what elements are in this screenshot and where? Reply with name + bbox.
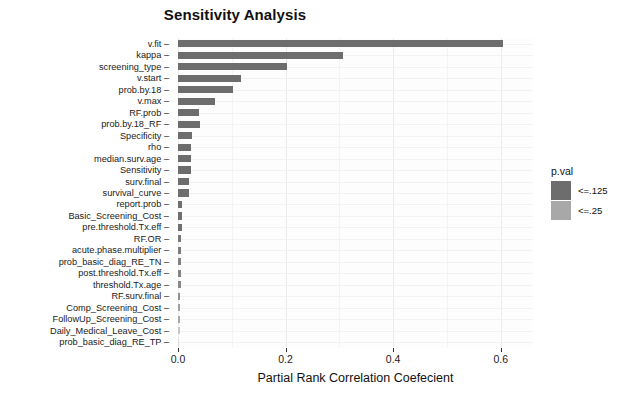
y-tick-label: rho – (148, 142, 169, 152)
bar (178, 270, 181, 277)
bar (178, 201, 182, 208)
y-tick-label: FollowUp_Screening_Cost – (53, 314, 169, 324)
legend-item[interactable]: <=.125 (551, 181, 636, 200)
bar (178, 109, 199, 116)
x-axis-title: Partial Rank Correlation Coefecient (178, 371, 533, 385)
bar (178, 75, 241, 82)
y-tick-label: v.start – (137, 73, 169, 83)
x-tick-label: 0.4 (386, 353, 401, 365)
bar (178, 40, 503, 47)
y-tick-label: report.prob – (116, 199, 169, 209)
x-tick-mark (501, 348, 502, 352)
bar (178, 281, 181, 288)
bar (178, 235, 181, 242)
legend-entries: <=.125<=.25 (551, 181, 636, 220)
y-tick-label: RF.prob – (129, 108, 169, 118)
legend-label: <=.25 (578, 205, 602, 216)
bar (178, 224, 182, 231)
y-tick-label: pre.threshold.Tx.eff – (82, 222, 169, 232)
legend: p.val <=.125<=.25 (551, 165, 636, 221)
bar (178, 304, 180, 311)
legend-item[interactable]: <=.25 (551, 201, 636, 220)
bar (178, 86, 233, 93)
y-tick-label: Daily_Medical_Leave_Cost – (50, 326, 169, 336)
y-tick-label: threshold.Tx.age – (93, 280, 169, 290)
y-tick-label: RF.surv.final – (111, 291, 169, 301)
y-tick-label: acute.phase.multiplier – (72, 245, 169, 255)
y-tick-label: Basic_Screening_Cost – (68, 211, 169, 221)
y-tick-label: RF.OR – (134, 234, 169, 244)
x-tick-label: 0.0 (171, 353, 186, 365)
y-axis: v.fit –kappa –screening_type –v.start –p… (0, 38, 178, 348)
y-tick-label: v.fit – (148, 39, 169, 49)
bar (178, 327, 180, 334)
y-tick-label: v.max – (138, 96, 169, 106)
y-tick-label: prob.by.18_RF – (101, 119, 169, 129)
x-tick-label: 0.6 (493, 353, 508, 365)
y-tick-label: Sensitivity – (120, 165, 169, 175)
bar (178, 339, 179, 346)
legend-label: <=.125 (578, 185, 608, 196)
y-tick-label: prob_basic_diag_RE_TN – (59, 257, 169, 267)
y-tick-label: Comp_Screening_Cost – (66, 303, 169, 313)
bar (178, 258, 181, 265)
bar (178, 52, 343, 59)
y-tick-label: screening_type – (99, 62, 169, 72)
y-tick-label: prob_basic_diag_RE_TP – (59, 337, 169, 347)
bar (178, 212, 182, 219)
x-tick-mark (286, 348, 287, 352)
bar (178, 293, 180, 300)
bar (178, 178, 189, 185)
y-tick-label: prob.by.18 – (119, 85, 169, 95)
bar (178, 144, 191, 151)
y-tick-label: surv.final – (125, 177, 169, 187)
bar (178, 63, 287, 70)
y-tick-label: median.surv.age – (94, 154, 169, 164)
bar (178, 166, 191, 173)
legend-swatch (551, 201, 571, 220)
bar (178, 189, 189, 196)
bars-layer (178, 38, 533, 348)
sensitivity-analysis-chart: Sensitivity Analysis v.fit –kappa –scree… (0, 0, 636, 401)
legend-title: p.val (551, 165, 636, 177)
legend-swatch (551, 181, 571, 200)
bar (178, 316, 180, 323)
bar (178, 155, 191, 162)
bar (178, 247, 181, 254)
bar (178, 132, 192, 139)
x-tick-mark (393, 348, 394, 352)
bar (178, 121, 200, 128)
y-tick-label: Specificity – (120, 131, 169, 141)
chart-title: Sensitivity Analysis (0, 6, 470, 23)
bar (178, 98, 215, 105)
x-tick-mark (178, 348, 179, 352)
plot-panel (178, 38, 533, 348)
y-tick-label: post.threshold.Tx.eff – (78, 268, 169, 278)
y-tick-label: survival_curve – (103, 188, 169, 198)
x-tick-label: 0.2 (278, 353, 293, 365)
y-tick-label: kappa – (136, 50, 169, 60)
